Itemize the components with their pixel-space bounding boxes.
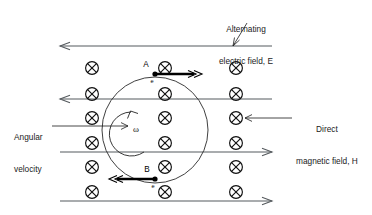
- angular-velocity-line-1: Angular: [14, 132, 43, 143]
- field-into-page-cross: [159, 62, 172, 75]
- omega-label: ω: [133, 124, 139, 134]
- field-into-page-cross: [86, 186, 99, 199]
- field-into-page-cross: [86, 137, 99, 150]
- field-into-page-cross: [230, 186, 243, 199]
- field-into-page-cross: [159, 161, 172, 174]
- particle-a-charge-label: e: [150, 78, 153, 84]
- alternating-electric-field-line-2: electric field, E: [219, 56, 273, 67]
- physics-diagram: ω A e B e: [0, 0, 372, 215]
- field-into-page-cross: [230, 112, 243, 125]
- electron-orbit-circle: [102, 77, 208, 183]
- alternating-electric-field-line-1: Alternating: [219, 24, 273, 35]
- field-into-page-cross: [159, 137, 172, 150]
- particle-b-group: B e: [109, 165, 158, 189]
- particle-b-charge-label: e: [151, 183, 154, 189]
- field-into-page-cross: [86, 112, 99, 125]
- particle-b-label: B: [144, 165, 150, 174]
- field-into-page-cross: [159, 186, 172, 199]
- hfield-callout-leader: [245, 115, 292, 122]
- field-into-page-cross: [86, 161, 99, 174]
- particle-a-label: A: [143, 60, 149, 69]
- field-into-page-cross: [230, 137, 243, 150]
- direct-magnetic-field-line-1: Direct: [296, 124, 358, 135]
- angular-velocity-label: Angular velocity: [14, 111, 43, 195]
- direct-magnetic-field-line-2: magnetic field, H: [296, 156, 358, 167]
- field-into-page-cross: [159, 112, 172, 125]
- field-into-page-cross: [230, 161, 243, 174]
- alternating-electric-field-label: Alternating electric field, E: [219, 3, 273, 87]
- angular-velocity-line-2: velocity: [14, 164, 43, 175]
- field-into-page-cross: [86, 62, 99, 75]
- direct-magnetic-field-label: Direct magnetic field, H: [296, 103, 358, 187]
